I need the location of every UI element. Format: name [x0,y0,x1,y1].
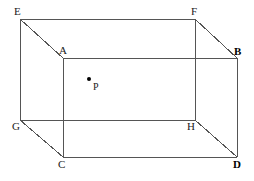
cuboid-wireframe-svg [0,0,254,181]
vertex-label-h: H [187,121,195,132]
cuboid-edges [20,19,237,157]
vertex-label-e: E [14,6,21,17]
vertex-label-a: A [59,45,67,56]
interior-point-group [87,77,91,81]
vertex-label-f: F [191,6,197,17]
vertex-label-g: G [12,121,20,132]
vertex-label-d: D [233,159,241,170]
point-label-p: P [93,82,99,92]
edge-FB [195,19,237,58]
point-P-marker [87,77,91,81]
geometry-figure: EFABGHCDP [0,0,254,181]
vertex-label-c: C [58,159,66,170]
vertex-label-b: B [234,46,242,57]
edge-GC [20,120,63,157]
edge-HD [195,120,237,157]
edge-EA [20,19,63,58]
